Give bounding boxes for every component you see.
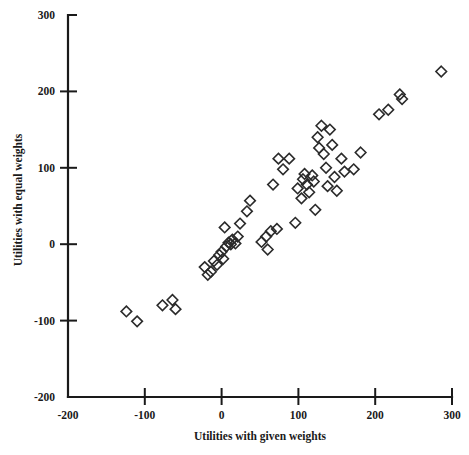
data-point [235, 218, 246, 229]
data-point [348, 164, 359, 175]
data-point [314, 143, 325, 154]
data-point [329, 172, 340, 183]
y-tick-label: 300 [38, 9, 56, 21]
y-axis-title: Utilities with equal weights [12, 133, 25, 266]
y-tick-label: 200 [38, 85, 56, 97]
axis-lines [68, 15, 452, 397]
data-point [278, 164, 289, 175]
data-point [336, 153, 347, 164]
data-point [339, 166, 350, 177]
y-axis-tick-labels: -200-1000100200300 [34, 9, 55, 403]
data-point [268, 179, 279, 190]
data-point [355, 147, 366, 158]
data-point-markers [121, 66, 446, 326]
data-point [121, 306, 132, 317]
data-point [242, 206, 253, 217]
data-point [318, 149, 329, 160]
data-point [312, 132, 323, 143]
x-tick-label: -100 [134, 409, 155, 421]
x-tick-label: 200 [367, 409, 385, 421]
x-tick-label: -200 [57, 409, 78, 421]
data-point [245, 195, 256, 206]
data-point [436, 66, 447, 77]
y-tick-label: 100 [38, 162, 56, 174]
y-tick-label: -200 [34, 391, 55, 403]
scatter-plot-figure: -200-1000100200300 -200-1000100200300 Ut… [0, 0, 469, 455]
data-point [284, 153, 295, 164]
data-point [327, 140, 338, 151]
x-axis-tick-labels: -200-1000100200300 [57, 409, 460, 421]
data-point [273, 153, 284, 164]
data-point [290, 218, 301, 229]
x-tick-label: 300 [443, 409, 461, 421]
data-point [321, 163, 332, 174]
data-point [157, 300, 168, 311]
x-tick-label: 100 [290, 409, 308, 421]
data-point [219, 222, 230, 233]
x-axis-title: Utilities with given weights [194, 430, 326, 443]
y-tick-label: -100 [34, 315, 55, 327]
plot-canvas: -200-1000100200300 -200-1000100200300 Ut… [0, 0, 469, 455]
data-point [310, 205, 321, 216]
y-tick-label: 0 [49, 238, 55, 250]
data-point [132, 316, 143, 327]
x-tick-label: 0 [219, 409, 225, 421]
